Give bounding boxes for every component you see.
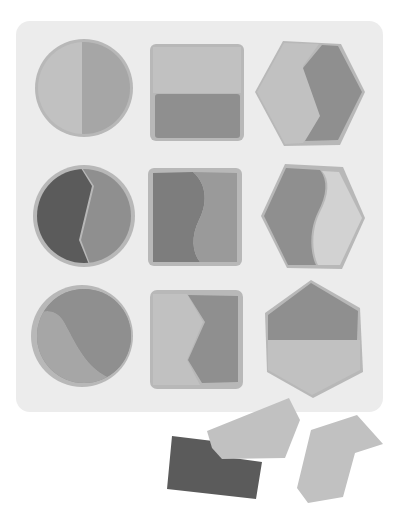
slot-square-top[interactable] [150,44,244,141]
slot-square-middle[interactable] [148,168,242,266]
piece-top-half[interactable] [153,47,241,93]
slot-square-bottom[interactable] [150,290,243,389]
piece-bottom-half[interactable] [155,94,240,138]
loose-piece-light-hexagon-chevron[interactable] [297,415,383,503]
puzzle-scene [0,0,395,509]
